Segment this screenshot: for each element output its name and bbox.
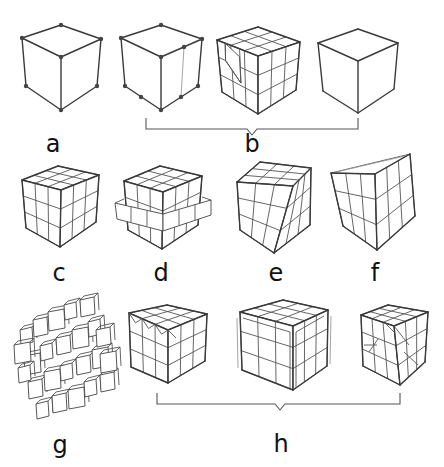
label-d: d [153,259,168,287]
bracket-h [157,393,400,410]
cube-h1 [129,305,207,383]
label-c: c [52,259,65,287]
cube-b1 [119,23,204,112]
cube-h3 [361,305,428,385]
cube-modeling-diagram: a b c d e f g h [0,0,444,467]
label-h: h [273,430,288,458]
cube-e [237,162,311,253]
label-a: a [46,130,61,158]
cube-illustrations [14,23,428,419]
cube-f [331,154,415,250]
cube-g-exploded [14,293,121,419]
cube-c [22,166,99,247]
label-g: g [52,431,67,459]
label-f: f [371,259,380,287]
cube-a [20,23,103,112]
cube-h2 [237,300,331,390]
label-e: e [269,259,284,287]
cube-b3 [318,29,398,113]
label-b: b [244,130,259,158]
cube-b2 [217,27,300,114]
cube-d [115,166,211,249]
